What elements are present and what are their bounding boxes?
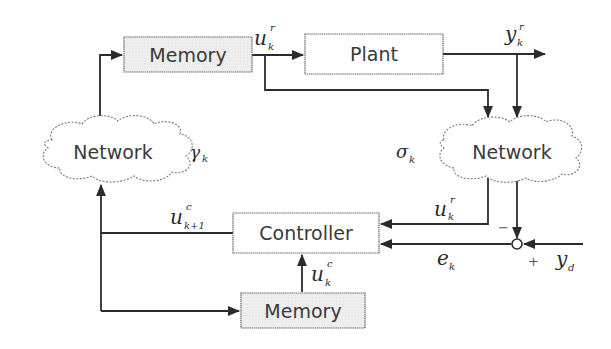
minus-sign: − — [498, 220, 509, 235]
signal-sup: c — [327, 258, 333, 269]
connections — [100, 54, 583, 311]
signal-sub: k — [448, 211, 454, 222]
sigma-subscript: k — [409, 154, 415, 165]
signal-u-r-right: u r k — [434, 194, 456, 222]
signal-sub: k — [268, 41, 274, 52]
controller-label: Controller — [259, 222, 353, 244]
network-left-label: Network — [73, 141, 152, 163]
signal-u-c: u c k — [311, 258, 333, 288]
diagram-canvas: Memory Plant Controller Memory Network γ… — [0, 0, 611, 349]
signal-base: e — [437, 246, 449, 270]
plant-label: Plant — [350, 43, 398, 65]
memory-top-label: Memory — [149, 44, 226, 66]
summing-junction — [512, 239, 522, 249]
sigma-symbol: σ — [396, 141, 409, 162]
network-right-text: Network — [472, 141, 551, 163]
signal-y-r: y r k — [504, 21, 525, 48]
signal-base: u — [434, 197, 447, 221]
signal-e-k: e k — [437, 246, 455, 272]
signal-base: y — [555, 247, 568, 271]
line-network-to-memory-top — [100, 55, 122, 120]
signal-sub: k — [325, 277, 331, 288]
signal-sup: r — [519, 21, 525, 32]
plant-block: Plant — [305, 34, 443, 74]
gamma-symbol: γ — [190, 142, 201, 162]
signal-sub: k — [517, 37, 523, 48]
signal-u-c-next: u c k+1 — [170, 201, 205, 231]
gamma-subscript: k — [202, 153, 208, 164]
signal-sup: c — [186, 201, 192, 212]
signal-base: u — [254, 26, 267, 50]
controller-block: Controller — [233, 213, 379, 253]
signal-base: u — [170, 205, 183, 229]
signal-u-r-top: u r k — [254, 22, 276, 52]
memory-top-block: Memory — [124, 37, 252, 72]
signal-sub: k+1 — [184, 220, 205, 231]
signal-sup: r — [450, 194, 456, 205]
memory-bottom-label: Memory — [264, 300, 341, 322]
signal-base: u — [311, 262, 324, 286]
signal-sup: r — [270, 22, 276, 33]
signal-sub: d — [568, 262, 574, 273]
plus-sign: + — [528, 254, 539, 269]
signal-y-d: y d — [555, 247, 574, 273]
signal-base: y — [504, 22, 517, 46]
memory-bottom-block: Memory — [241, 293, 365, 328]
signal-sub: k — [449, 261, 455, 272]
network-left-cloud: Network — [43, 116, 192, 182]
